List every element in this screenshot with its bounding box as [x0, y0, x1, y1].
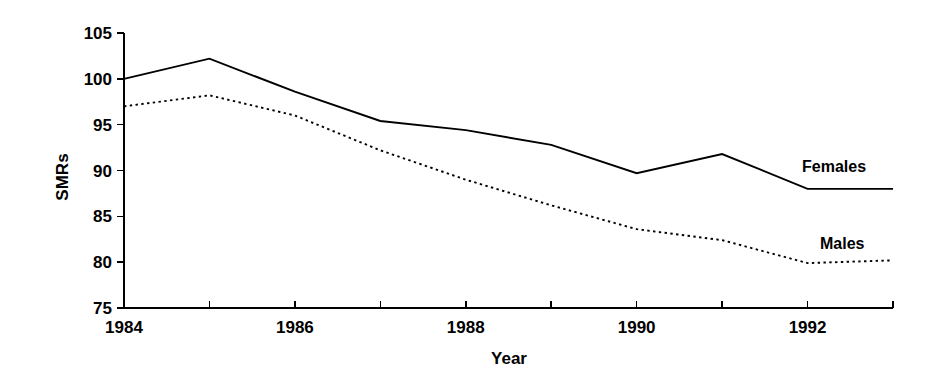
- x-tick-label: 1992: [789, 318, 827, 337]
- y-axis-ticks: [117, 33, 124, 308]
- series-label-males: Males: [820, 235, 865, 252]
- y-axis-title: SMRs: [53, 153, 72, 200]
- y-tick-label: 105: [84, 24, 112, 43]
- y-tick-label: 95: [93, 116, 112, 135]
- y-axis-tick-labels: 7580859095100105: [84, 24, 112, 318]
- series-label-females: Females: [802, 158, 866, 175]
- x-tick-label: 1984: [105, 318, 143, 337]
- series-line-males: [124, 95, 893, 263]
- x-tick-label: 1990: [618, 318, 656, 337]
- y-tick-label: 75: [93, 299, 112, 318]
- x-tick-label: 1986: [276, 318, 314, 337]
- y-tick-label: 80: [93, 253, 112, 272]
- y-tick-label: 85: [93, 207, 112, 226]
- series-line-females: [124, 59, 893, 189]
- chart-figure: 7580859095100105 19841986198819901992 Fe…: [0, 0, 943, 381]
- x-tick-label: 1988: [447, 318, 485, 337]
- x-axis-ticks: [124, 301, 893, 308]
- y-tick-label: 90: [93, 162, 112, 181]
- line-chart-svg: 7580859095100105 19841986198819901992 Fe…: [0, 0, 943, 381]
- x-axis-tick-labels: 19841986198819901992: [105, 318, 826, 337]
- y-tick-label: 100: [84, 70, 112, 89]
- x-axis-title: Year: [491, 349, 527, 368]
